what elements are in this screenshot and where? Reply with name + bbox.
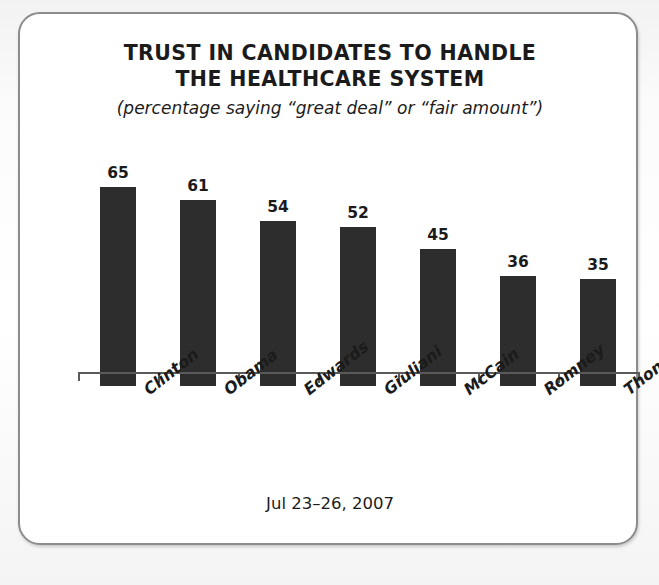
chart-category-labels: ClintonObamaEdwardsGiulianiMcCainRomneyT… bbox=[60, 384, 640, 474]
category-label-obama: Obama bbox=[220, 384, 232, 399]
category-label-romney: Romney bbox=[540, 384, 552, 399]
bar-slot: 61 bbox=[158, 166, 238, 386]
bar-clinton[interactable] bbox=[100, 187, 136, 386]
bar-value-label: 52 bbox=[318, 204, 398, 222]
bar-slot: 54 bbox=[238, 166, 318, 386]
bar-slot: 65 bbox=[78, 166, 158, 386]
chart-footer-date: Jul 23–26, 2007 bbox=[20, 494, 640, 513]
bar-value-label: 61 bbox=[158, 177, 238, 195]
category-label-thompson: Thompson bbox=[620, 384, 632, 399]
chart-card: TRUST IN CANDIDATES TO HANDLE THE HEALTH… bbox=[18, 12, 638, 545]
category-label-clinton: Clinton bbox=[140, 384, 152, 399]
chart-subtitle: (percentage saying “great deal” or “fair… bbox=[20, 97, 640, 119]
category-label-mccain: McCain bbox=[460, 384, 472, 399]
chart-title-block: TRUST IN CANDIDATES TO HANDLE THE HEALTH… bbox=[20, 40, 640, 119]
bar-value-label: 35 bbox=[558, 256, 638, 274]
x-axis-tick bbox=[78, 372, 80, 381]
bar-value-label: 36 bbox=[478, 253, 558, 271]
bar-value-label: 54 bbox=[238, 198, 318, 216]
chart-title-line-1: TRUST IN CANDIDATES TO HANDLE bbox=[20, 40, 640, 66]
bar-value-label: 45 bbox=[398, 226, 478, 244]
chart-screenshot: TRUST IN CANDIDATES TO HANDLE THE HEALTH… bbox=[0, 0, 659, 585]
category-label-giuliani: Giuliani bbox=[380, 384, 392, 399]
bar-value-label: 65 bbox=[78, 164, 158, 182]
category-label-edwards: Edwards bbox=[300, 384, 312, 399]
chart-title-line-2: THE HEALTHCARE SYSTEM bbox=[20, 66, 640, 92]
